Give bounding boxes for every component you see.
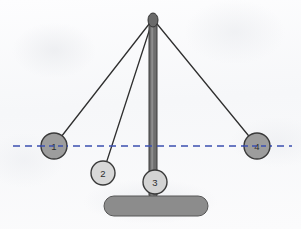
stand-base (104, 196, 208, 216)
physics-diagram-figure: 1 2 3 4 (0, 0, 301, 229)
ball-3-label: 3 (152, 177, 157, 188)
ball-3: 3 (143, 170, 167, 194)
string-to-ball-4 (153, 19, 257, 146)
ball-2: 2 (91, 161, 115, 185)
pivot-cap (148, 13, 158, 27)
ball-2-label: 2 (100, 168, 105, 179)
pendulum-scene: 1 2 3 4 (0, 0, 301, 229)
string-to-ball-2 (103, 19, 153, 173)
string-to-ball-1 (54, 19, 153, 146)
